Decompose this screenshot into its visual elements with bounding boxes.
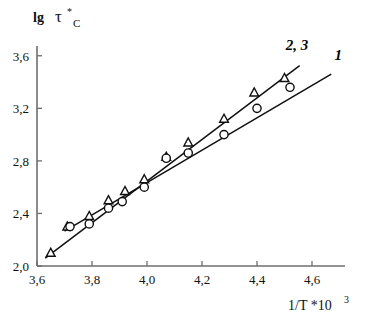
y-tick-label: 2,8 <box>13 154 29 169</box>
y-axis-title: lg τ * C <box>33 6 80 29</box>
y-axis-title-lg: lg <box>33 10 44 25</box>
circle-marker <box>286 83 294 91</box>
fit-lines <box>45 66 331 258</box>
y-axis-title-star: * <box>67 6 72 17</box>
triangle-marker <box>104 196 113 204</box>
x-tick-label: 4,2 <box>194 272 210 287</box>
y-axis-title-tau: τ <box>55 7 62 26</box>
circle-marker <box>118 198 126 206</box>
triangle-marker <box>140 175 149 183</box>
triangle-marker <box>220 114 229 122</box>
fit-line-23 <box>45 66 299 258</box>
circle-marker <box>85 220 93 228</box>
x-tick-label: 3,8 <box>84 272 100 287</box>
x-tick-label: 4,6 <box>304 272 321 287</box>
circle-marker <box>162 154 170 162</box>
circle-marker <box>104 204 112 212</box>
chart-figure: 3,63,84,04,24,44,6 2,02,42,83,23,6 2, 31… <box>0 0 368 319</box>
x-tick-label: 4,0 <box>139 272 155 287</box>
circle-marker <box>140 183 148 191</box>
triangle-marker <box>184 138 193 146</box>
y-tick-label: 2,4 <box>13 206 30 221</box>
y-tick-label: 2,0 <box>13 259 29 274</box>
circle-marker <box>220 131 228 139</box>
x-axis-ticks: 3,63,84,04,24,44,6 <box>29 261 321 287</box>
x-tick-label: 3,6 <box>29 272 46 287</box>
series-label-1: 1 <box>334 47 342 63</box>
x-tick-label: 4,4 <box>249 272 266 287</box>
circle-marker <box>253 104 261 112</box>
scatter-plot-svg: 3,63,84,04,24,44,6 2,02,42,83,23,6 2, 31… <box>0 0 368 319</box>
y-axis-title-subscript: C <box>73 17 80 29</box>
y-tick-label: 3,2 <box>13 101 29 116</box>
x-axis-title: 1/T *10 3 <box>288 294 349 313</box>
series-annotations: 2, 31 <box>285 37 342 64</box>
series-label-23: 2, 3 <box>285 37 309 53</box>
triangle-marker <box>250 88 259 96</box>
x-axis-title-base: 1/T *10 <box>288 298 332 313</box>
circle-marker <box>66 222 74 230</box>
y-tick-label: 3,6 <box>13 49 30 64</box>
x-axis-title-exponent: 3 <box>344 294 349 305</box>
triangle-marker <box>121 187 130 195</box>
circle-marker <box>184 149 192 157</box>
